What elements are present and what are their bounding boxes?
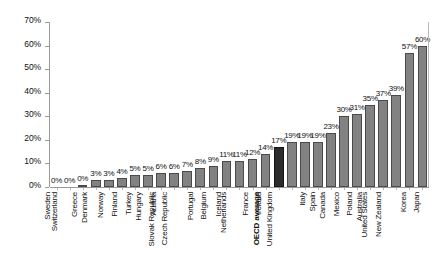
bar-group: 6% (168, 22, 181, 187)
bar-group: 57% (403, 22, 416, 187)
bar (339, 116, 349, 187)
x-axis-category-label: Greece (70, 192, 79, 217)
y-axis-tick-mark (45, 22, 49, 23)
bar-value-label: 4% (116, 167, 127, 176)
bar (169, 173, 179, 187)
bar-value-label: 0% (64, 176, 75, 185)
bar (274, 147, 284, 187)
bar-group: 37% (377, 22, 390, 187)
bar-group: 0% (76, 22, 89, 187)
bar-group: 3% (102, 22, 115, 187)
bar (235, 161, 245, 187)
bar-value-label: 31% (350, 103, 365, 112)
y-axis-tick-label: 30% (24, 110, 41, 119)
bar (261, 154, 271, 187)
x-axis-category-label: Poland (345, 192, 354, 216)
y-axis-tick-mark (45, 69, 49, 70)
right-axis-line (428, 22, 429, 187)
bar-value-label: 23% (323, 122, 338, 131)
bar (104, 180, 114, 187)
bar-chart: 70%60%50%40%30%20%10%0% 0%0%0%3%3%4%5%5%… (0, 0, 443, 280)
y-axis-tick-mark (45, 116, 49, 117)
y-axis-tick-label: 40% (24, 87, 41, 96)
bar (326, 133, 336, 187)
bar (130, 175, 140, 187)
bar (248, 159, 258, 187)
bar (143, 175, 153, 187)
bar-group: 14% (259, 22, 272, 187)
y-axis-tick-label: 10% (24, 157, 41, 166)
y-axis-tick-mark (45, 46, 49, 47)
bar-group: 19% (298, 22, 311, 187)
bar (222, 161, 232, 187)
x-axis-category: Japan (416, 192, 429, 280)
x-axis-category-label: New Zealand (374, 192, 383, 237)
bar-value-label: 8% (195, 157, 206, 166)
x-axis-category-label: Switzerland (50, 192, 59, 231)
x-axis-category-label: Czech Republic (161, 192, 170, 245)
bar-group: 5% (141, 22, 154, 187)
bar (391, 95, 401, 187)
bar (209, 166, 219, 187)
bar-group: 0% (50, 22, 63, 187)
x-axis-category-label: Italy (298, 192, 307, 206)
bar (378, 100, 388, 187)
bar (352, 114, 362, 187)
y-axis-tick-mark (45, 140, 49, 141)
bar-value-label: 6% (169, 162, 180, 171)
x-axis-category: United Kingdom (285, 192, 298, 280)
bar (195, 168, 205, 187)
bar (313, 142, 323, 187)
x-axis-category-label: Japan (412, 192, 421, 213)
x-axis-category-label: Mexico (332, 192, 341, 216)
x-axis-category-label: Finland (109, 192, 118, 217)
y-axis-tick-mark (45, 187, 49, 188)
bar-group: 6% (155, 22, 168, 187)
bar-group: 19% (285, 22, 298, 187)
x-axis-category-label: Hungary (134, 192, 143, 221)
bar-group: 12% (246, 22, 259, 187)
bar-group: 7% (181, 22, 194, 187)
bar-group: 8% (194, 22, 207, 187)
bar-value-label: 7% (182, 160, 193, 169)
bar-value-label: 9% (208, 155, 219, 164)
y-axis-tick-label: 0% (29, 181, 41, 190)
y-axis-tick-label: 70% (24, 16, 41, 25)
bar (182, 171, 192, 188)
bar-value-label: 39% (389, 84, 404, 93)
bar-group: 9% (207, 22, 220, 187)
bar-group: 31% (351, 22, 364, 187)
x-axis-category-label: Portugal (186, 192, 195, 220)
x-axis-category-label: Korea (399, 192, 408, 212)
bar-value-label: 3% (90, 169, 101, 178)
bar (117, 178, 127, 187)
bar (156, 173, 166, 187)
x-axis-category-label: France (241, 192, 250, 216)
y-axis-tick-mark (45, 163, 49, 164)
x-axis-line (50, 187, 429, 188)
bar-value-label: 3% (103, 169, 114, 178)
bar (287, 142, 297, 187)
y-axis-tick-label: 60% (24, 40, 41, 49)
bar-group: 35% (364, 22, 377, 187)
x-axis-category-label: Belgium (200, 192, 209, 220)
x-axis-category: OECD average (272, 192, 285, 280)
x-axis-category-label: Netherlands (219, 192, 228, 233)
x-axis-category-label: Slovak Republic (147, 192, 156, 246)
bar (365, 105, 375, 188)
x-axis-category: Slovak Republic (168, 192, 181, 280)
x-axis-category-label: United Kingdom (265, 192, 274, 246)
bar-value-label: 5% (129, 164, 140, 173)
y-axis-tick-label: 50% (24, 63, 41, 72)
y-axis-tick-mark (45, 93, 49, 94)
plot-area: 0%0%0%3%3%4%5%5%6%6%7%8%9%11%11%12%14%17… (50, 22, 429, 187)
bar-group: 11% (233, 22, 246, 187)
bar (405, 53, 415, 187)
x-axis-category-labels: SwedenSwitzerlandGreeceDenmarkNorwayFinl… (50, 192, 429, 280)
bar (418, 46, 428, 187)
x-axis-category-label: Turkey (123, 192, 132, 215)
bar-group: 4% (115, 22, 128, 187)
y-axis-tick-label: 20% (24, 134, 41, 143)
bar-group: 3% (89, 22, 102, 187)
bar-value-label: 0% (77, 174, 88, 183)
